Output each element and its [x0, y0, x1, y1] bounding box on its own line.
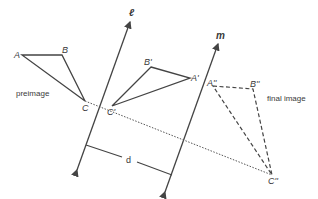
first-image-triangle: B' A' C' [107, 57, 199, 117]
line-l-label: ℓ [129, 7, 135, 18]
vertex-c-label: C [82, 103, 89, 113]
line-m-label: m [216, 30, 225, 41]
preimage-triangle: A B C preimage [13, 45, 89, 113]
vertex-b-label: B [62, 45, 68, 55]
line-l: ℓ [77, 7, 135, 170]
distance-marker: d [86, 145, 172, 175]
vertex-c-double-prime-label: C'' [268, 176, 278, 186]
vertex-a-double-prime-label: A'' [206, 78, 217, 88]
line-m: m [165, 30, 225, 192]
distance-label: d [126, 155, 131, 165]
final-image-caption: final image [267, 94, 306, 103]
preimage-caption: preimage [16, 89, 50, 98]
vertex-c-prime-label: C' [107, 107, 115, 117]
reflection-diagram: ℓ m d A B C preimage B' A' C' A'' B'' C'… [0, 0, 318, 199]
vertex-a-label: A [13, 50, 20, 60]
vertex-a-prime-label: A' [190, 73, 199, 83]
final-image-triangle: A'' B'' C'' final image [206, 78, 306, 186]
vertex-b-prime-label: B' [144, 57, 152, 67]
vertex-b-double-prime-label: B'' [250, 79, 260, 89]
